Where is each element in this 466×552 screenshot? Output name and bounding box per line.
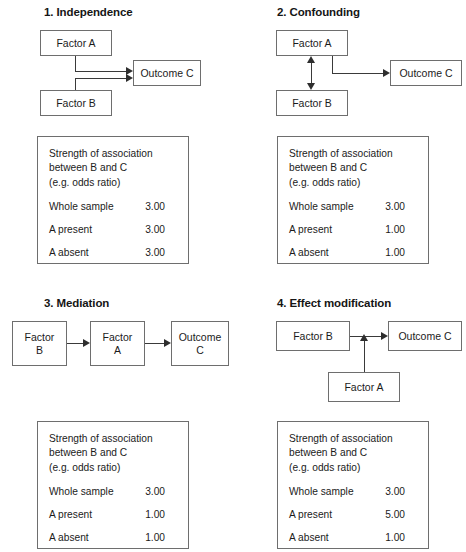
table-row: A present 5.00	[289, 509, 428, 520]
node-factor-a: Factor A	[90, 321, 145, 366]
connector-b-to-a	[67, 343, 83, 344]
row-label: A present	[49, 224, 131, 235]
node-outcome-c: Outcome C	[390, 60, 462, 86]
row-value: 3.00	[371, 486, 405, 497]
node-factor-b: Factor B	[12, 321, 67, 366]
node-outcome-c: Outcome C	[133, 60, 201, 86]
result-table-heading: Strength of association between B and C …	[289, 432, 428, 475]
node-outcome-c: Outcome C	[171, 321, 229, 366]
node-label-line1: Factor	[103, 331, 133, 343]
row-label: Whole sample	[289, 201, 371, 212]
row-label: Whole sample	[49, 201, 131, 212]
node-label-line2: C	[196, 344, 204, 356]
table-row: Whole sample 3.00	[49, 486, 188, 497]
table-row: A absent 1.00	[289, 247, 428, 258]
connector-a-to-c-vertical	[75, 56, 76, 71]
result-table-mediation: Strength of association between B and C …	[37, 421, 189, 549]
row-value: 1.00	[131, 532, 165, 543]
node-label-line1: Outcome	[179, 331, 222, 343]
row-value: 3.00	[131, 486, 165, 497]
result-table-heading: Strength of association between B and C …	[289, 147, 428, 190]
node-factor-a: Factor A	[40, 30, 112, 56]
result-table-rows: Whole sample 3.00 A present 3.00 A absen…	[49, 201, 188, 258]
row-value: 3.00	[371, 201, 405, 212]
connector-a-modifier-vertical	[364, 340, 365, 372]
connector-b-to-c-horizontal	[75, 78, 126, 79]
result-table-independence: Strength of association between B and C …	[37, 136, 189, 264]
result-table-confounding: Strength of association between B and C …	[277, 136, 429, 264]
result-table-rows: Whole sample 3.00 A present 1.00 A absen…	[49, 486, 188, 543]
row-label: Whole sample	[49, 486, 131, 497]
table-row: A present 1.00	[289, 224, 428, 235]
table-row: A absent 3.00	[49, 247, 188, 258]
arrowhead-a-to-b	[307, 83, 315, 90]
arrowhead-b-to-a	[83, 339, 90, 347]
node-label-line2: A	[114, 344, 121, 356]
row-label: A present	[289, 509, 371, 520]
table-row: Whole sample 3.00	[49, 201, 188, 212]
result-table-rows: Whole sample 3.00 A present 5.00 A absen…	[289, 486, 428, 543]
row-value: 5.00	[371, 509, 405, 520]
arrowhead-b-to-c	[126, 74, 133, 82]
row-value: 3.00	[131, 247, 165, 258]
row-label: A absent	[49, 247, 131, 258]
row-label: A absent	[289, 247, 371, 258]
row-value: 3.00	[131, 201, 165, 212]
row-value: 1.00	[371, 532, 405, 543]
connector-a-to-c	[145, 343, 164, 344]
node-factor-b: Factor B	[40, 90, 112, 116]
arrowhead-b-to-c	[381, 332, 388, 340]
node-factor-b: Factor B	[276, 321, 350, 351]
node-factor-a: Factor A	[276, 30, 348, 56]
connector-b-to-c-vertical	[75, 78, 76, 90]
row-value: 3.00	[131, 224, 165, 235]
result-table-rows: Whole sample 3.00 A present 1.00 A absen…	[289, 201, 428, 258]
node-label-line2: B	[36, 344, 43, 356]
row-value: 1.00	[371, 247, 405, 258]
arrowhead-a-to-c	[164, 339, 171, 347]
table-row: A present 1.00	[49, 509, 188, 520]
row-value: 1.00	[371, 224, 405, 235]
node-outcome-c: Outcome C	[388, 321, 462, 351]
row-label: A present	[49, 509, 131, 520]
panel-title-independence: 1. Independence	[44, 6, 133, 18]
row-label: A absent	[49, 532, 131, 543]
node-factor-a: Factor A	[328, 372, 400, 402]
node-label-line1: Factor	[25, 331, 55, 343]
arrowhead-a-to-c	[383, 69, 390, 77]
panel-title-mediation: 3. Mediation	[44, 297, 109, 309]
table-row: Whole sample 3.00	[289, 201, 428, 212]
table-row: A absent 1.00	[49, 532, 188, 543]
panel-title-confounding: 2. Confounding	[277, 6, 360, 18]
connector-a-to-c-vertical	[332, 56, 333, 73]
result-table-effect-modification: Strength of association between B and C …	[277, 421, 429, 549]
node-factor-b: Factor B	[276, 90, 348, 116]
arrowhead-a-modifier	[360, 334, 368, 341]
table-row: A absent 1.00	[289, 532, 428, 543]
result-table-heading: Strength of association between B and C …	[49, 432, 188, 475]
result-table-heading: Strength of association between B and C …	[49, 147, 188, 190]
row-label: A present	[289, 224, 371, 235]
row-value: 1.00	[131, 509, 165, 520]
table-row: A present 3.00	[49, 224, 188, 235]
connector-a-to-c-horizontal	[332, 73, 383, 74]
panel-title-effect-modification: 4. Effect modification	[277, 297, 391, 309]
row-label: Whole sample	[289, 486, 371, 497]
table-row: Whole sample 3.00	[289, 486, 428, 497]
row-label: A absent	[289, 532, 371, 543]
arrowhead-b-to-a	[307, 56, 315, 63]
connector-a-to-c-horizontal	[75, 71, 126, 72]
